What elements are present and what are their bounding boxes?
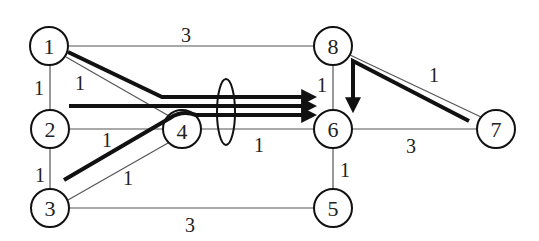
node-3: 3 xyxy=(31,189,69,227)
flow-bundle-ellipse xyxy=(217,79,235,145)
network-diagram: 3 1 1 1 1 1 3 1 1 1 3 1 1 2 3 4 5 6 7 8 xyxy=(0,0,539,241)
node-4: 4 xyxy=(163,110,201,148)
weight-6-7: 3 xyxy=(406,135,416,157)
flow-1-to-6 xyxy=(68,52,310,97)
svg-text:3: 3 xyxy=(45,196,56,221)
weight-1-4: 1 xyxy=(75,72,85,94)
weight-1-2: 1 xyxy=(34,77,44,99)
svg-text:6: 6 xyxy=(328,117,339,142)
weight-8-7: 1 xyxy=(429,64,439,86)
node-1: 1 xyxy=(30,27,68,65)
weight-4-6: 1 xyxy=(254,134,264,156)
svg-text:8: 8 xyxy=(328,34,339,59)
weight-8-6: 1 xyxy=(317,74,327,96)
svg-text:2: 2 xyxy=(45,117,56,142)
flow-7-to-6 xyxy=(353,61,469,121)
svg-text:4: 4 xyxy=(177,119,188,144)
weight-3-4: 1 xyxy=(123,167,133,189)
edge-8-7 xyxy=(350,55,481,117)
weight-3-5: 3 xyxy=(185,214,195,236)
node-6: 6 xyxy=(314,110,352,148)
weight-1-8: 3 xyxy=(181,24,191,46)
node-2: 2 xyxy=(31,110,69,148)
svg-text:5: 5 xyxy=(328,196,339,221)
node-8: 8 xyxy=(314,27,352,65)
edges xyxy=(50,46,481,208)
weight-2-4: 1 xyxy=(102,129,112,151)
nodes: 1 2 3 4 5 6 7 8 xyxy=(30,27,515,227)
weight-6-5: 1 xyxy=(340,159,350,181)
node-5: 5 xyxy=(314,189,352,227)
svg-text:7: 7 xyxy=(491,117,502,142)
edge-weights: 3 1 1 1 1 1 3 1 1 1 3 1 xyxy=(34,24,439,236)
flows xyxy=(64,52,469,180)
svg-text:1: 1 xyxy=(44,34,55,59)
weight-2-3: 1 xyxy=(35,164,45,186)
edge-3-4 xyxy=(68,143,168,200)
node-7: 7 xyxy=(477,110,515,148)
